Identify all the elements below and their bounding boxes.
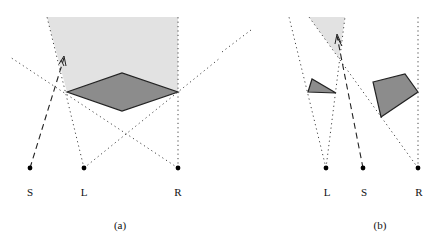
panel-a: S L R (a): [10, 17, 220, 232]
point-R-b: [416, 166, 421, 171]
point-S-b: [361, 166, 366, 171]
point-L-a: [82, 166, 87, 171]
panel-b: L S R (b): [222, 17, 423, 232]
path-arrow-a: [30, 56, 66, 168]
diagram-canvas: S L R (a) L S R (b): [0, 0, 438, 241]
obstacle-quadrilateral: [373, 74, 418, 117]
point-S-a: [28, 166, 33, 171]
caption-b: (b): [374, 219, 387, 232]
occluded-region-b: [309, 17, 345, 58]
obstacle-triangle: [308, 79, 336, 93]
label-R-b: R: [415, 186, 423, 198]
caption-a: (a): [114, 219, 127, 232]
label-L-b: L: [324, 186, 331, 198]
point-L-b: [324, 166, 329, 171]
point-R-a: [176, 166, 181, 171]
label-R-a: R: [174, 186, 182, 198]
label-S-a: S: [27, 186, 33, 198]
label-S-b: S: [361, 186, 367, 198]
label-L-a: L: [81, 186, 88, 198]
